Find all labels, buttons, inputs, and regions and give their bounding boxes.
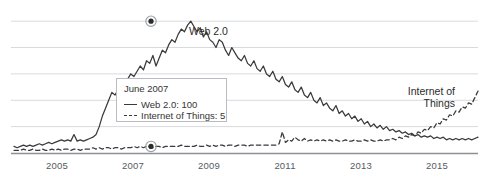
- x-tick-2013: 2013: [350, 160, 372, 171]
- marker-dot-web-2-0[interactable]: [148, 19, 153, 24]
- internet-of-things-label-line2: Things: [408, 98, 455, 110]
- x-tick-2005: 2005: [46, 160, 68, 171]
- x-tick-2007: 2007: [122, 160, 144, 171]
- web-2-0-label-text: Web 2.0: [189, 25, 228, 37]
- x-tick-2009: 2009: [198, 160, 220, 171]
- tooltip-date: June 2007: [124, 84, 219, 94]
- x-tick-2011: 2011: [274, 160, 295, 171]
- x-tick-2015: 2015: [426, 160, 448, 171]
- internet-of-things-label-line1: Internet of: [408, 86, 455, 98]
- internet-of-things-label: Internet of Things: [408, 86, 455, 109]
- web-2-0-label: Web 2.0: [189, 26, 228, 38]
- marker-dot-internet-of-things[interactable]: [148, 144, 153, 149]
- legend-swatch-solid-icon: [124, 101, 137, 108]
- tooltip-row-internet-of-things: Internet of Things: 5: [124, 110, 219, 121]
- tooltip: June 2007 Web 2.0: 100 Internet of Thing…: [116, 78, 227, 122]
- google-trends-chart: Web 2.0 Internet of Things June 2007 Web…: [0, 0, 488, 181]
- tooltip-row-internet-of-things-label: Internet of Things: 5: [141, 110, 225, 121]
- tooltip-row-web-2-0-label: Web 2.0: 100: [141, 99, 197, 110]
- tooltip-row-web-2-0: Web 2.0: 100: [124, 99, 219, 110]
- legend-swatch-dashed-icon: [124, 112, 137, 119]
- gridlines: [11, 21, 478, 126]
